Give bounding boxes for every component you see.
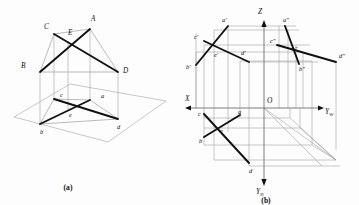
label-a-prime: a′ [222, 16, 227, 23]
label-c: c [198, 110, 201, 117]
label-d: d [117, 123, 121, 130]
axis-label-O: O [267, 96, 273, 105]
mitre-lines [264, 108, 336, 166]
label-b-dprime: b″ [299, 65, 305, 72]
label-b: b [199, 137, 202, 144]
figure-root: A B C D E a b c d e (a) [0, 0, 359, 205]
label-e-dprime: e″ [292, 45, 298, 52]
label-A: A [90, 15, 96, 23]
panel-a-canvas: A B C D E a b c d e (a) [0, 0, 180, 205]
axis-label-X: X [184, 94, 190, 103]
axis-label-YW-sub: W [329, 112, 334, 117]
label-E: E [67, 29, 73, 37]
arrow-YW [318, 106, 324, 111]
label-e: e [220, 127, 223, 134]
axis-label-YW: YW [325, 107, 334, 117]
label-c-prime: c′ [194, 33, 199, 40]
label-d-dprime: d″ [339, 52, 345, 59]
label-e: e [69, 111, 72, 118]
arrow-YH [261, 179, 266, 186]
line-CD [54, 34, 118, 72]
panel-b-canvas: a′ a″ c′ c″ e′ e″ d′ d″ b′ b″ c a e b d … [180, 0, 359, 205]
label-D: D [122, 67, 129, 75]
lower-frame [40, 99, 118, 124]
line-cd [204, 114, 249, 163]
label-b-prime: b′ [186, 63, 191, 70]
panel-b-point-labels: a′ a″ c′ c″ e′ e″ d′ d″ b′ b″ c a e b d [186, 16, 345, 174]
label-c: c [60, 91, 63, 98]
label-b: b [40, 128, 43, 135]
axis-label-Z: Z [258, 7, 263, 16]
arrow-Z [261, 20, 266, 27]
label-a-dprime: a″ [283, 16, 289, 23]
label-a: a [101, 92, 104, 99]
label-e-prime: e′ [214, 51, 219, 58]
label-d: d [249, 167, 253, 174]
line-c-dprime-d-dprime [277, 45, 336, 62]
panel-b-axis-labels: Z X YW YH O [184, 7, 334, 197]
line-ab [40, 100, 90, 124]
arrow-X [185, 106, 191, 111]
label-B: B [21, 62, 26, 70]
caption-a: (a) [64, 183, 73, 192]
caption-b: (b) [261, 196, 271, 205]
label-d-prime: d′ [241, 49, 246, 56]
label-c-dprime: c″ [270, 37, 276, 44]
label-a: a [238, 108, 241, 115]
label-C: C [44, 23, 49, 31]
